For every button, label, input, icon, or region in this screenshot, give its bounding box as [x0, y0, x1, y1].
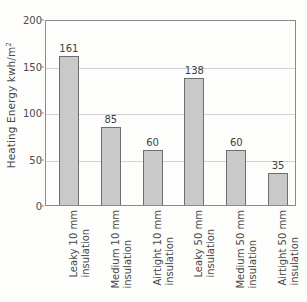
- y-tick-label: 200: [18, 15, 42, 26]
- x-category-label: Airtight 50 mminsulation: [260, 208, 294, 302]
- x-category-label: Medium 50 mminsulation: [218, 208, 252, 302]
- x-category-label: Airtight 10 mminsulation: [135, 208, 169, 302]
- bar: [268, 173, 288, 206]
- y-tick-label: 150: [18, 61, 42, 72]
- bar-group: 60: [219, 21, 253, 206]
- x-category-label-line1: Medium 50 mm: [235, 210, 247, 289]
- bar-value-label: 161: [52, 43, 86, 54]
- y-tick-mark: [40, 159, 44, 160]
- x-category-label-line1: Medium 10 mm: [110, 210, 122, 289]
- bar: [143, 150, 163, 206]
- y-tick-label: 100: [18, 108, 42, 119]
- bar: [184, 78, 204, 206]
- x-category-label-line1: Airtight 10 mm: [152, 210, 164, 286]
- bar: [59, 56, 79, 206]
- x-category-label-line2: insulation: [163, 210, 175, 286]
- bar-value-label: 85: [94, 114, 128, 125]
- x-axis-line: [45, 205, 296, 206]
- plot-area: 16185601386035: [45, 20, 296, 206]
- x-category-label: Leaky 50 mminsulation: [176, 208, 210, 302]
- bar-group: 35: [261, 21, 295, 206]
- y-tick-mark: [40, 206, 44, 207]
- x-category-label-line2: insulation: [121, 210, 133, 289]
- y-axis-title-superscript: 2: [5, 42, 13, 47]
- bar: [101, 127, 121, 206]
- y-tick-mark: [40, 20, 44, 21]
- x-axis-category-labels: Leaky 10 mminsulationMedium 10 mminsulat…: [45, 208, 296, 302]
- bar: [226, 150, 246, 206]
- bar-group: 85: [94, 21, 128, 206]
- bar-value-label: 60: [136, 137, 170, 148]
- y-tick-label: 50: [18, 154, 42, 165]
- x-category-label-line2: insulation: [247, 210, 259, 289]
- bar-group: 138: [177, 21, 211, 206]
- bar-group: 60: [136, 21, 170, 206]
- x-category-label: Medium 10 mminsulation: [93, 208, 127, 302]
- bar-group: 161: [52, 21, 86, 206]
- bar-value-label: 138: [177, 65, 211, 76]
- x-category-label: Leaky 10 mminsulation: [51, 208, 85, 302]
- bar-chart-figure: Heating Energy kwh/m2 050100150200 16185…: [0, 0, 307, 302]
- bar-value-label: 60: [219, 137, 253, 148]
- y-tick-mark: [40, 113, 44, 114]
- x-category-label-line1: Airtight 50 mm: [277, 210, 289, 286]
- y-axis-ticks: 050100150200: [14, 0, 42, 302]
- x-category-label-line1: Leaky 10 mm: [68, 210, 80, 278]
- x-category-label-line2: insulation: [289, 210, 301, 286]
- bar-value-label: 35: [261, 160, 295, 171]
- x-category-label-line2: insulation: [79, 210, 91, 278]
- x-category-label-line2: insulation: [205, 210, 217, 278]
- x-category-label-line1: Leaky 50 mm: [193, 210, 205, 278]
- y-tick-label: 0: [18, 201, 42, 212]
- bars-layer: 16185601386035: [46, 21, 295, 206]
- y-tick-mark: [40, 66, 44, 67]
